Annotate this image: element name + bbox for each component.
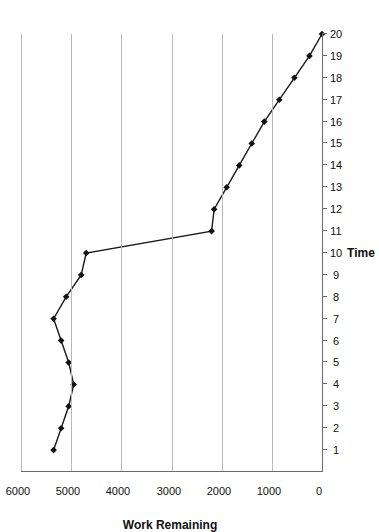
xtick-label-5: 5 <box>325 357 347 369</box>
xtick-label-15: 15 <box>325 138 347 150</box>
gridline-2000 <box>222 34 223 472</box>
gridline-6000 <box>21 34 22 472</box>
xtick-label-8: 8 <box>325 291 347 303</box>
xtick-label-4: 4 <box>325 378 347 390</box>
xtick-label-12: 12 <box>325 203 347 215</box>
ytick-label-6000: 6000 <box>3 485 33 497</box>
gridline-4000 <box>121 34 122 472</box>
data-point-marker <box>83 250 90 257</box>
xtick-label-11: 11 <box>325 225 347 237</box>
y-axis-title: Work Remaining <box>105 518 235 532</box>
xtick-label-7: 7 <box>325 313 347 325</box>
ytick-label-4000: 4000 <box>103 485 133 497</box>
x-axis-title: Time <box>341 246 379 260</box>
gridline-3000 <box>172 34 173 472</box>
data-point-marker <box>223 184 230 191</box>
ytick-label-2000: 2000 <box>204 485 234 497</box>
data-point-marker <box>236 162 243 169</box>
xtick-label-17: 17 <box>325 94 347 106</box>
data-point-marker <box>58 425 65 432</box>
gridline-1000 <box>272 34 273 472</box>
xtick-label-19: 19 <box>325 50 347 62</box>
xtick-label-9: 9 <box>325 269 347 281</box>
xtick-label-1: 1 <box>325 444 347 456</box>
xtick-label-18: 18 <box>325 72 347 84</box>
data-point-marker <box>50 447 57 454</box>
data-point-marker <box>50 315 57 322</box>
ytick-label-0: 0 <box>304 485 334 497</box>
xtick-label-20: 20 <box>325 28 347 40</box>
data-point-marker <box>58 337 65 344</box>
ytick-label-5000: 5000 <box>53 485 83 497</box>
xtick-label-2: 2 <box>325 422 347 434</box>
xtick-label-14: 14 <box>325 159 347 171</box>
xtick-label-3: 3 <box>325 400 347 412</box>
time-axis-spine <box>21 471 322 472</box>
xtick-label-13: 13 <box>325 181 347 193</box>
data-point-marker <box>248 140 255 147</box>
plot-area <box>21 34 322 472</box>
data-point-marker <box>208 228 215 235</box>
ytick-label-3000: 3000 <box>154 485 184 497</box>
gridline-5000 <box>71 34 72 472</box>
ytick-label-1000: 1000 <box>254 485 284 497</box>
data-series-line <box>54 34 322 450</box>
xtick-label-16: 16 <box>325 116 347 128</box>
data-point-marker <box>211 206 218 213</box>
xtick-label-6: 6 <box>325 335 347 347</box>
